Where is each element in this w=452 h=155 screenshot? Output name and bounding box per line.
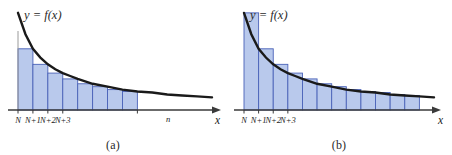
- axis-tick-label: N+1: [24, 115, 41, 125]
- panel-a-x-axis-label: x: [214, 114, 221, 126]
- axis-tick-label: N+3: [279, 115, 296, 125]
- panel-b: NN+1N+2N+3 y = f(x) x (b): [226, 0, 452, 155]
- panel-b-plot: NN+1N+2N+3 y = f(x) x: [226, 0, 452, 130]
- panel-b-curve-label: y = f(x): [248, 8, 288, 22]
- integral-test-figure: NN+1N+2N+3 y = f(x) x n (a) NN+1N+2N+3 y…: [0, 0, 452, 155]
- panel-b-caption: (b): [226, 138, 452, 153]
- panel-a-caption: (a): [0, 138, 226, 153]
- axis-tick-label: N: [240, 115, 248, 125]
- rectangle: [18, 49, 33, 110]
- panel-b-x-axis-label: x: [437, 114, 444, 126]
- rectangle: [33, 64, 48, 110]
- axis-tick-label: N+3: [54, 115, 71, 125]
- rectangle: [244, 13, 259, 110]
- panel-a-ticks: NN+1N+2N+3: [14, 110, 137, 125]
- rectangle: [122, 92, 137, 110]
- rectangle: [317, 84, 332, 110]
- panel-a-x-axis-arrowhead: [212, 107, 221, 114]
- panel-b-x-axis-arrowhead: [432, 107, 441, 114]
- axis-tick-label: N+2: [39, 115, 56, 125]
- rectangle: [390, 94, 405, 110]
- panel-b-ticks: NN+1N+2N+3: [240, 110, 296, 125]
- rectangle: [63, 79, 78, 110]
- axis-tick-label: N+1: [250, 115, 267, 125]
- rectangle: [108, 90, 123, 110]
- rectangle: [93, 87, 108, 110]
- axis-tick-label: N: [14, 115, 22, 125]
- rectangle: [78, 84, 93, 110]
- panel-a: NN+1N+2N+3 y = f(x) x n (a): [0, 0, 226, 155]
- panel-a-curve-label: y = f(x): [22, 8, 62, 22]
- rectangle: [361, 92, 376, 110]
- rectangle: [405, 95, 420, 110]
- rectangle: [346, 90, 361, 110]
- rectangle: [48, 73, 63, 110]
- panel-a-end-tick-label: n: [166, 114, 170, 124]
- panel-a-plot: NN+1N+2N+3 y = f(x) x n: [0, 0, 226, 130]
